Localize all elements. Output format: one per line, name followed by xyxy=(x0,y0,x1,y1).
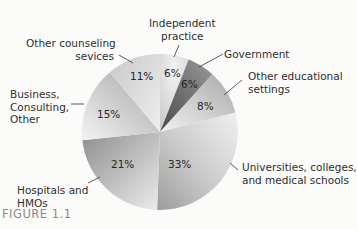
label-line: settings xyxy=(248,83,343,96)
label-line: Government xyxy=(224,48,289,61)
label-line: Independent xyxy=(149,17,216,30)
label-line: Other counseling xyxy=(26,37,114,50)
label-line: Other xyxy=(10,113,69,126)
pie-slices xyxy=(82,54,238,210)
label-line: sevices xyxy=(26,50,114,63)
label-line: Other educational xyxy=(248,70,343,83)
label-business: Business, Consulting, Other xyxy=(10,88,69,126)
pct-hospitals: 21% xyxy=(111,158,134,170)
pct-business: 15% xyxy=(97,108,120,120)
pct-universities: 33% xyxy=(168,158,191,170)
label-universities: Universities, colleges, and medical scho… xyxy=(242,161,357,186)
label-line: Consulting, xyxy=(10,101,69,114)
label-government: Government xyxy=(224,48,289,61)
label-line: Business, xyxy=(10,88,69,101)
pct-counseling: 11% xyxy=(130,70,153,82)
label-line: Hospitals and xyxy=(17,184,88,197)
label-line: Universities, colleges, xyxy=(242,161,357,174)
pct-independent: 6% xyxy=(164,67,181,79)
label-other-educational-settings: Other educational settings xyxy=(248,70,343,95)
figure-caption: FIGURE 1.1 xyxy=(2,207,72,221)
label-line: practice xyxy=(149,30,216,43)
pct-other-edu: 8% xyxy=(197,100,214,112)
label-line: and medical schools xyxy=(242,174,357,187)
pct-government: 6% xyxy=(181,78,198,90)
label-independent-practice: Independent practice xyxy=(149,17,216,42)
slice-hospitals xyxy=(82,132,160,210)
label-other-counseling: Other counseling sevices xyxy=(26,37,114,62)
label-hospitals: Hospitals and HMOs xyxy=(17,184,88,209)
